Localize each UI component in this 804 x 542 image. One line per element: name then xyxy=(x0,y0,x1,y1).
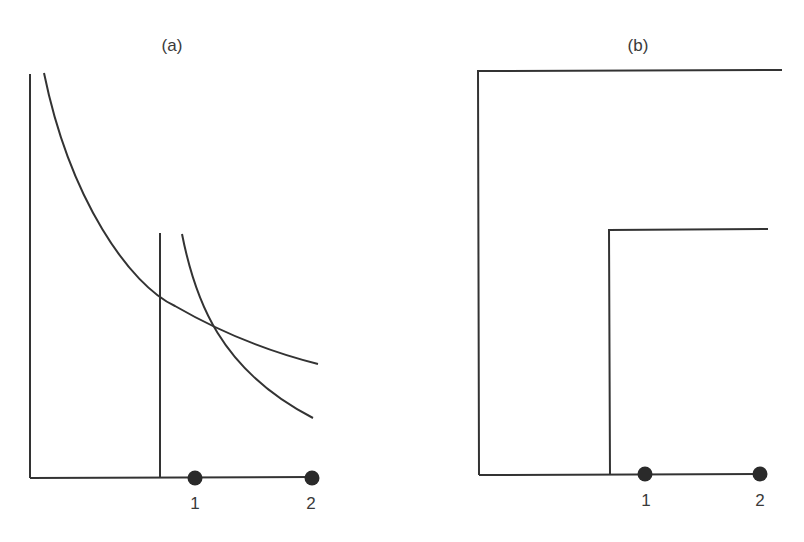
panel-b-inner-boundary xyxy=(609,229,768,474)
panel-b-point-1 xyxy=(638,467,653,482)
panel-b-tick-1: 1 xyxy=(641,491,650,511)
panel-b-graphic xyxy=(0,0,804,542)
panel-b-outer-boundary xyxy=(478,70,782,475)
panel-b-tick-2: 2 xyxy=(755,491,764,511)
panel-b-point-2 xyxy=(753,467,768,482)
panel-b-x-axis xyxy=(479,474,760,475)
